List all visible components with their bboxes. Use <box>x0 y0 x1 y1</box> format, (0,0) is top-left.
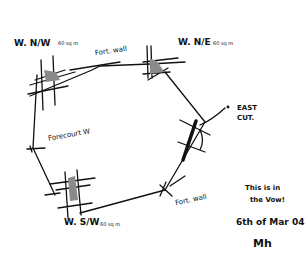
sketch-canvas: W. N/W 60 sq m Fort. wall W. N/E 60 sq m… <box>0 0 308 275</box>
sw-tower-label: W. S/W <box>64 218 99 227</box>
east-cut-label-2: CUT. <box>237 115 254 122</box>
note-line-1: This is in <box>245 185 280 192</box>
west-wall-lower <box>33 148 55 195</box>
east-cut-label: EAST <box>237 105 257 112</box>
west-marker <box>27 146 45 152</box>
se-junction <box>160 176 185 196</box>
east-cut-lines <box>178 108 225 152</box>
ne-tower-label: W. N/E <box>178 38 211 47</box>
west-wall-upper <box>33 75 37 148</box>
ne-tower-note: 60 sq m <box>213 41 233 46</box>
sw-tower-note: 60 sq m <box>100 222 120 227</box>
south-wall <box>80 190 165 213</box>
date-label: 6th of Mar 04 <box>236 218 304 227</box>
nw-tower-label: W. N/W <box>14 39 51 48</box>
nw-tower-note: 60 sq m <box>58 41 78 46</box>
sw-tower-shade <box>68 176 78 201</box>
signature: Mh <box>253 238 272 249</box>
note-line-2: the Vow! <box>250 197 285 204</box>
ne-diagonal-wall <box>165 72 205 122</box>
